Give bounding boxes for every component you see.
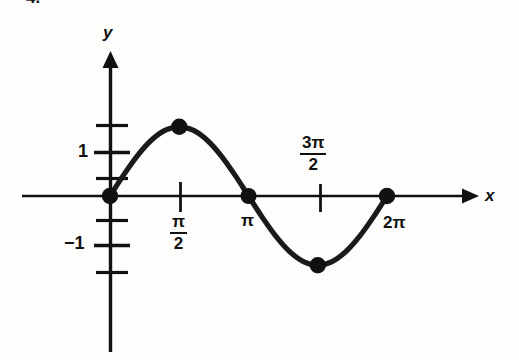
x-axis-arrowhead-icon — [462, 189, 479, 204]
fraction-numerator: 3π — [300, 134, 326, 155]
sine-graph-figure: 4. y x 1 −1 π 2 π 3π 2 2π — [0, 0, 519, 360]
x-tick-label-3pi-over-2: 3π 2 — [300, 134, 326, 174]
x-tick-label-2pi: 2π — [383, 214, 405, 231]
y-tick-label-1: 1 — [78, 142, 88, 160]
y-tick-label-negative-1: −1 — [64, 234, 85, 252]
point-minimum-3pi-over-2 — [310, 257, 326, 273]
y-axis-label: y — [103, 24, 112, 41]
x-tick-label-pi-over-2: π 2 — [170, 213, 187, 253]
problem-number: 4. — [26, 0, 40, 6]
point-zero-pi — [241, 188, 257, 204]
point-zero-2pi — [379, 188, 395, 204]
x-axis-label: x — [485, 187, 494, 204]
x-tick-label-pi: π — [241, 212, 254, 229]
point-maximum-pi-over-2 — [171, 119, 187, 135]
fraction-denominator: 2 — [300, 155, 326, 174]
graph-canvas — [0, 0, 519, 360]
fraction-numerator: π — [170, 213, 187, 234]
y-axis-arrowhead-icon — [103, 51, 119, 68]
fraction-3pi-over-2: 3π 2 — [300, 134, 326, 174]
fraction-pi-over-2: π 2 — [170, 213, 187, 253]
fraction-denominator: 2 — [170, 234, 187, 253]
point-origin — [102, 188, 118, 204]
